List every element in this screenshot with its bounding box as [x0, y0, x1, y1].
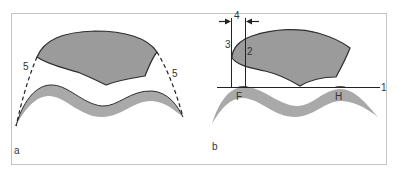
- panel-b: 4 3 2 1 F H b: [212, 10, 387, 152]
- panel-a-dashed-line-right: [157, 52, 183, 117]
- diagram-canvas: 5 5 a 4 3 2: [0, 0, 397, 176]
- callout-f: F: [236, 91, 242, 102]
- callout-2: 2: [247, 46, 253, 57]
- callout-5-left: 5: [23, 61, 29, 72]
- panel-a-upper-shape: [37, 31, 157, 85]
- dental-diagram-figure: 5 5 a 4 3 2: [0, 0, 397, 176]
- callout-h: H: [335, 91, 342, 102]
- callout-5-right: 5: [172, 68, 178, 79]
- panel-b-label: b: [212, 141, 218, 152]
- panel-a: 5 5 a: [14, 31, 183, 156]
- panel-a-label: a: [14, 145, 20, 156]
- panel-b-upper-shape: [232, 30, 350, 86]
- callout-4: 4: [234, 10, 240, 21]
- callout-3: 3: [225, 39, 231, 50]
- callout-1: 1: [381, 82, 387, 93]
